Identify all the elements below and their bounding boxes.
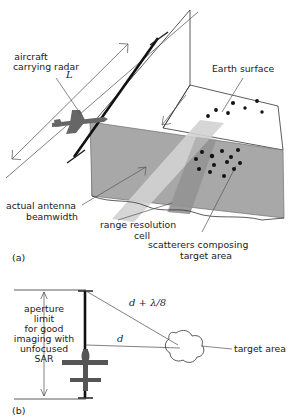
target-area-blob <box>165 330 203 362</box>
beamwidth-label-line2: beamwidth <box>26 211 78 222</box>
aperture-symbol-label: L <box>65 69 73 80</box>
panel-a-group: aircraft carrying radar L Earth surface … <box>6 10 284 263</box>
panel-a-id: (a) <box>12 252 25 263</box>
range-cell-label-line1: range resolution <box>100 219 176 230</box>
earth-surface-label: Earth surface <box>212 63 275 74</box>
range-short-label: d <box>117 333 123 344</box>
target-area-leader <box>201 346 232 349</box>
scatterers-label-line1: scatterers composing <box>148 239 248 250</box>
panel-b-group: aperture limit for good imaging with unf… <box>12 290 286 416</box>
scatterer-dots-upper <box>206 99 264 118</box>
beamwidth-label-line1: actual antenna <box>6 200 76 211</box>
aircraft-icon-panel-b <box>62 349 108 391</box>
sar-geometry-figure: aircraft carrying radar L Earth surface … <box>0 0 290 420</box>
scatterers-label-line2: target area <box>180 250 232 261</box>
range-long-label: d + λ/8 <box>129 297 166 308</box>
panel-b-id: (b) <box>12 405 25 416</box>
target-area-label: target area <box>234 343 286 354</box>
aperture-limit-line-6: SAR <box>35 353 54 364</box>
